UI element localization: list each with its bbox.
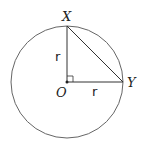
- circle-diagram: X Y O r r: [0, 0, 143, 146]
- label-radius-vertical: r: [55, 49, 61, 64]
- label-radius-horizontal: r: [92, 84, 98, 99]
- label-y: Y: [127, 75, 137, 90]
- chord-xy: [67, 26, 123, 82]
- center-point: [66, 81, 69, 84]
- label-x: X: [61, 9, 72, 24]
- label-o: O: [56, 85, 67, 100]
